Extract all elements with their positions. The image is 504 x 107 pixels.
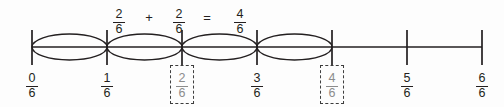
fraction: 4 6 xyxy=(326,72,338,100)
tick-label-5-6: 5 6 xyxy=(401,68,413,100)
fraction-denominator: 6 xyxy=(476,86,488,100)
tick-label-1-6: 1 6 xyxy=(101,68,113,100)
fraction-numerator: 0 xyxy=(26,72,38,86)
fraction: 6 6 xyxy=(476,72,488,100)
fraction-denominator: 6 xyxy=(401,86,413,100)
tick-label-0-6: 0 6 xyxy=(26,68,38,100)
fraction-numerator: 2 xyxy=(176,72,188,86)
fraction-denominator: 6 xyxy=(326,86,338,100)
fraction-numerator: 1 xyxy=(101,72,113,86)
fraction: 3 6 xyxy=(251,72,263,100)
fraction: 0 6 xyxy=(26,72,38,100)
answer-box-2-6[interactable]: 2 6 xyxy=(170,65,194,104)
tick-label-6-6: 6 6 xyxy=(476,68,488,100)
fraction-numerator: 6 xyxy=(476,72,488,86)
fraction-number-line-widget: 2 6 + 2 6 = 4 6 xyxy=(0,0,504,107)
fraction-numerator: 4 xyxy=(326,72,338,86)
tick-label-3-6: 3 6 xyxy=(251,68,263,100)
fraction-denominator: 6 xyxy=(251,86,263,100)
answer-box-4-6[interactable]: 4 6 xyxy=(320,65,344,104)
fraction: 5 6 xyxy=(401,72,413,100)
fraction-numerator: 5 xyxy=(401,72,413,86)
fraction-denominator: 6 xyxy=(26,86,38,100)
fraction-denominator: 6 xyxy=(101,86,113,100)
fraction: 1 6 xyxy=(101,72,113,100)
fraction: 2 6 xyxy=(176,72,188,100)
fraction-numerator: 3 xyxy=(251,72,263,86)
fraction-denominator: 6 xyxy=(176,86,188,100)
